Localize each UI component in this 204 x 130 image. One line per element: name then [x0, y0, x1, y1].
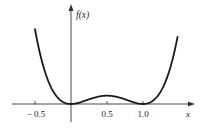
x-axis-label: x [185, 109, 190, 119]
x-axis-arrow-icon [188, 102, 195, 107]
function-plot: − 0.5 0.5 1.0 x f(x) [0, 0, 204, 130]
x-tick-label-0-5: 0.5 [101, 109, 113, 119]
x-tick-label-1-0: 1.0 [137, 109, 149, 119]
x-tick-label-neg-0-5: − 0.5 [27, 109, 46, 119]
y-axis-label: f(x) [76, 10, 89, 21]
function-curve [35, 29, 178, 104]
y-axis-arrow-icon [69, 4, 74, 11]
